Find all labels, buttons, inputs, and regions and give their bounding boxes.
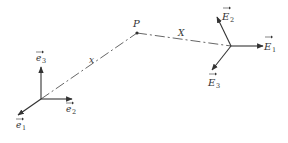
svg-text:E: E [263, 41, 272, 52]
vector-x-label: x [89, 55, 94, 65]
svg-text:3: 3 [216, 82, 220, 90]
axis-e3-label: e 3 [36, 51, 46, 66]
svg-text:E: E [207, 77, 216, 88]
svg-text:e: e [66, 104, 71, 114]
vector-X-label: X [177, 28, 185, 38]
svg-text:E: E [221, 11, 230, 22]
axis-e2-label: e 2 [66, 102, 76, 117]
position-vector-x-line [41, 33, 137, 99]
frame-E: E 2 E 1 E 3 [207, 7, 276, 91]
kinematics-diagram: P x X e 3 e 2 e 1 [0, 0, 288, 143]
frame-e: e 3 e 2 e 1 [16, 51, 76, 133]
svg-text:1: 1 [22, 124, 26, 132]
axis-E1-label: E 1 [263, 36, 276, 55]
svg-text:2: 2 [72, 108, 76, 116]
point-p [135, 31, 138, 34]
svg-text:e: e [36, 53, 41, 63]
axis-e1-arrow [18, 99, 41, 115]
svg-text:e: e [16, 120, 21, 130]
axis-E3-label: E 3 [207, 73, 220, 91]
svg-text:2: 2 [230, 16, 234, 24]
axis-E2-label: E 2 [221, 7, 234, 25]
point-p-label: P [132, 18, 140, 29]
axis-E3-arrow [212, 46, 231, 70]
svg-text:1: 1 [272, 46, 276, 54]
svg-text:3: 3 [42, 57, 46, 65]
axis-e1-label: e 1 [16, 118, 26, 133]
